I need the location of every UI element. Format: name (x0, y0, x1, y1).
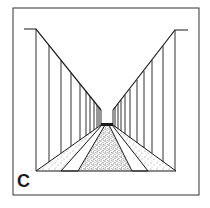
perspective-corridor-drawing (0, 0, 210, 208)
figure-label: C (17, 172, 30, 190)
right-wall-top (113, 30, 188, 110)
corridor-end (101, 123, 113, 126)
